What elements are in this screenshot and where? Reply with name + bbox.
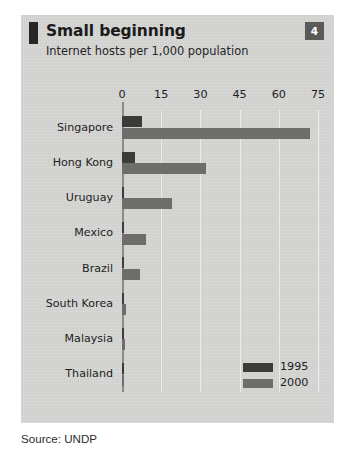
x-tick-label-75: 75 <box>311 88 325 101</box>
plot-area: 01530456075 SingaporeHong KongUruguayMex… <box>122 110 318 392</box>
bar-hong-kong-2000 <box>122 163 206 174</box>
category-label-uruguay: Uruguay <box>66 191 113 204</box>
bar-row: Hong Kong <box>122 145 334 180</box>
bar-singapore-2000 <box>122 128 310 139</box>
x-tick-label-15: 15 <box>154 88 168 101</box>
source-note: Source: UNDP <box>21 432 97 445</box>
bar-row: Uruguay <box>122 181 334 216</box>
bar-south-korea-2000 <box>122 304 126 315</box>
bar-malaysia-1995 <box>122 328 124 339</box>
bar-uruguay-2000 <box>122 198 172 209</box>
legend-item-2000: 2000 <box>243 376 325 390</box>
bar-brazil-1995 <box>122 257 124 268</box>
chart-title: Small beginning <box>46 22 186 40</box>
bar-malaysia-2000 <box>122 339 125 350</box>
bar-mexico-2000 <box>122 234 146 245</box>
bar-thailand-1995 <box>122 363 124 374</box>
x-tick-label-0: 0 <box>118 88 125 101</box>
chart-figure: Small beginning Internet hosts per 1,000… <box>21 15 334 423</box>
category-label-singapore: Singapore <box>57 121 113 134</box>
bar-brazil-2000 <box>122 269 140 280</box>
bar-row: Mexico <box>122 216 334 251</box>
category-label-malaysia: Malaysia <box>65 332 113 345</box>
bar-thailand-2000 <box>122 375 124 386</box>
chart-subtitle: Internet hosts per 1,000 population <box>46 44 248 58</box>
legend: 19952000 <box>243 360 325 392</box>
category-label-brazil: Brazil <box>82 262 113 275</box>
bar-row: Brazil <box>122 251 334 286</box>
category-label-hong-kong: Hong Kong <box>53 156 113 169</box>
title-accent-mark <box>29 22 38 44</box>
bar-hong-kong-1995 <box>122 152 135 163</box>
figure-number-badge: 4 <box>305 22 324 40</box>
x-tick-label-30: 30 <box>193 88 207 101</box>
x-tick-label-45: 45 <box>232 88 246 101</box>
bar-row: Malaysia <box>122 322 334 357</box>
bar-south-korea-1995 <box>122 293 124 304</box>
bar-singapore-1995 <box>122 116 142 127</box>
legend-swatch-1995 <box>243 363 273 372</box>
bar-row: Singapore <box>122 110 334 145</box>
category-label-south-korea: South Korea <box>46 297 113 310</box>
x-tick-label-60: 60 <box>272 88 286 101</box>
category-label-thailand: Thailand <box>65 367 113 380</box>
legend-swatch-2000 <box>243 379 273 388</box>
legend-label-1995: 1995 <box>280 361 308 372</box>
legend-label-2000: 2000 <box>280 377 308 388</box>
bar-uruguay-1995 <box>122 187 124 198</box>
category-label-mexico: Mexico <box>74 226 113 239</box>
bar-mexico-1995 <box>122 222 124 233</box>
legend-item-1995: 1995 <box>243 360 325 374</box>
bar-row: South Korea <box>122 286 334 321</box>
